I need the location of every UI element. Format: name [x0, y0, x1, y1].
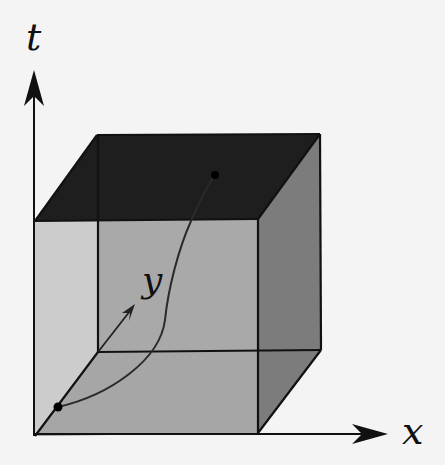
diagram-canvas: t x y [0, 0, 445, 465]
trajectory-end-dot [211, 171, 219, 179]
y-axis-label: y [140, 259, 163, 300]
trajectory-start-dot [54, 403, 63, 412]
t-axis-label: t [26, 15, 42, 59]
spacetime-cube-diagram: t x y [0, 0, 445, 465]
x-axis-label: x [402, 409, 423, 453]
